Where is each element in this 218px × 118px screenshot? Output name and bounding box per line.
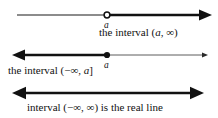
interval-notation-figure: a a the interval (a, ∞) the interval (−∞…	[0, 0, 218, 118]
caption-open-interval-lead: the interval (	[99, 26, 155, 38]
number-line-open-interval	[17, 10, 212, 21]
caption-open-interval-tail: , ∞)	[161, 26, 178, 38]
row2-endpoint-label-a: a	[104, 60, 109, 70]
number-line-real-line	[12, 87, 204, 99]
caption-real-line: interval (−∞, ∞) is the real line	[27, 101, 163, 113]
caption-closed-interval: the interval (−∞, a]	[8, 64, 93, 76]
caption-open-interval: the interval (a, ∞)	[99, 26, 178, 38]
row2-filled-dot-endpoint-icon	[104, 52, 110, 58]
row2-left-arrowhead-icon	[12, 50, 25, 61]
caption-closed-interval-tail: ]	[89, 64, 93, 76]
row3-right-arrowhead-icon	[190, 87, 204, 99]
row2-right-small-arrowhead-icon	[202, 52, 208, 57]
caption-closed-interval-lead: the interval (−∞,	[8, 64, 84, 76]
row1-right-arrowhead-icon	[199, 10, 212, 21]
number-line-closed-interval	[12, 50, 208, 61]
row1-open-circle-endpoint-icon	[104, 12, 110, 18]
row3-left-arrowhead-icon	[12, 87, 26, 99]
